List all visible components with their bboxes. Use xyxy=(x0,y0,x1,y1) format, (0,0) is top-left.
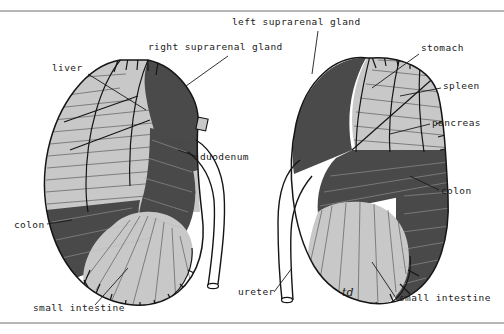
label-ureter: ureter xyxy=(238,286,275,297)
label-spleen: spleen xyxy=(443,80,480,91)
label-stomach: stomach xyxy=(421,42,464,53)
label-left-suprarenal-gland: left suprarenal gland xyxy=(232,16,361,27)
hilum-marker-left xyxy=(196,117,208,131)
label-right-suprarenal-gland: right suprarenal gland xyxy=(148,41,283,52)
label-small-intestine-right: small intestine xyxy=(399,292,491,303)
label-small-intestine-left: small intestine xyxy=(33,302,125,313)
label-pancreas: pancreas xyxy=(432,117,481,128)
label-colon-left: colon xyxy=(14,219,45,230)
label-duodenum: duodenum xyxy=(200,151,249,162)
label-liver: liver xyxy=(52,62,83,73)
label-annotation-td: td xyxy=(342,286,353,299)
label-colon-right: colon xyxy=(441,185,472,196)
kidney-relations-figure: liver right suprarenal gland duodenum co… xyxy=(0,0,504,334)
